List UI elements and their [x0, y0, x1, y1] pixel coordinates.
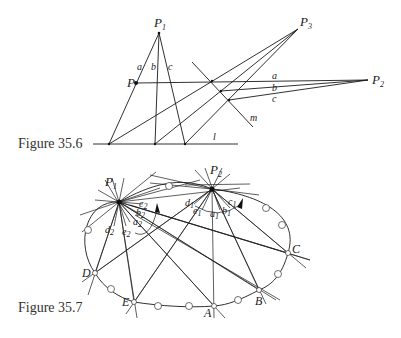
line-b-p1 [155, 33, 159, 144]
label-fig7-p1: P1 [104, 174, 117, 191]
label-b: B [255, 294, 263, 308]
label-c: C [292, 242, 301, 256]
base-point-2 [154, 143, 156, 145]
line-m [192, 62, 253, 127]
label-a-left: a [137, 61, 142, 72]
intersection-a [211, 80, 213, 82]
label-d: D [81, 266, 91, 280]
arrow-p1 [155, 203, 160, 213]
label-e1: e1 [193, 205, 201, 218]
base-point-3 [184, 143, 186, 145]
point-p2-center [210, 187, 215, 192]
label-e2: e2 [122, 226, 130, 239]
label-p2: P2 [371, 72, 384, 89]
point-p1 [158, 32, 161, 35]
label-d2: d2 [105, 224, 114, 237]
label-fig7-p2: P2 [209, 162, 222, 179]
label-a1: a1 [210, 208, 219, 221]
label-m: m [250, 112, 257, 123]
pencil-p1 [80, 172, 310, 318]
label-e: E [121, 295, 130, 309]
arrow-p2 [237, 198, 243, 209]
caption-35-6: Figure 35.6 [18, 136, 83, 151]
intersection-c [228, 99, 230, 101]
label-l: l [213, 131, 216, 142]
line-p1-c [130, 205, 310, 260]
label-p1: P1 [153, 15, 166, 32]
figure-35-6: P1 P P3 P2 a b c a b c m l Figure 35.6 [18, 14, 384, 151]
label-b-left: b [151, 61, 156, 72]
point-p1-center [117, 200, 122, 205]
label-a: A [203, 306, 212, 320]
line-c-p1 [159, 33, 185, 144]
label-b-right: b [272, 82, 277, 93]
label-c-left: c [168, 61, 173, 72]
label-a-right: a [272, 70, 277, 81]
caption-35-7: Figure 35.7 [18, 300, 83, 315]
diagram-canvas: P1 P P3 P2 a b c a b c m l Figure 35.6 [0, 0, 401, 338]
figure-35-7: P1 P2 D E A B C d2 e2 a2 b2 c2 d1 e1 a1 … [18, 162, 310, 320]
line-p3-1 [109, 29, 298, 144]
intersection-b [220, 90, 222, 92]
base-point-1 [108, 143, 110, 145]
label-p: P [126, 75, 135, 90]
label-c-right: c [272, 93, 277, 104]
line-c-p2 [229, 80, 368, 100]
label-p3: P3 [299, 14, 312, 31]
